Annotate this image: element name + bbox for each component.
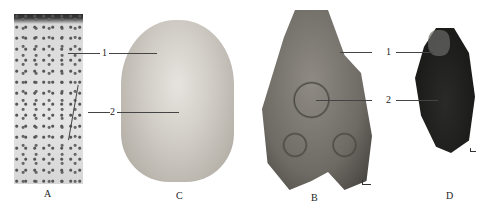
leader-line-1-b	[340, 52, 372, 53]
panel-label-b: B	[311, 192, 318, 203]
leader-line-1-d	[396, 52, 434, 53]
panel-label-d: D	[446, 190, 453, 201]
panel-label-c: C	[176, 190, 183, 201]
leader-line-2-b	[316, 100, 372, 101]
callout-1-a: 1	[102, 48, 107, 58]
leader-line-2-c	[117, 112, 179, 113]
panel-label-a: A	[44, 188, 51, 199]
scale-bar-d	[470, 148, 476, 152]
leader-line-2-d	[396, 100, 438, 101]
callout-2-a: 2	[110, 107, 115, 117]
callout-1-b: 1	[386, 47, 391, 57]
leader-line-1-c	[109, 53, 157, 54]
panel-a-image	[14, 14, 83, 184]
callout-2-b: 2	[386, 95, 391, 105]
scale-bar-b	[362, 180, 371, 185]
leader-line-2-a	[88, 112, 110, 113]
leader-line-1-a	[68, 53, 100, 54]
panel-c-image	[121, 20, 234, 182]
